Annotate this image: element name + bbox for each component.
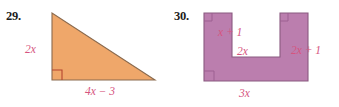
worksheet-page: 29. 2x 4x − 3 30. x + 1 2x 2x + 1 3x bbox=[0, 0, 339, 107]
figure-30-u-shape bbox=[0, 0, 339, 107]
dimension-label-inner-base: 2x bbox=[237, 46, 248, 58]
dimension-label-arm-height: x + 1 bbox=[218, 27, 242, 39]
dimension-label-bottom: 3x bbox=[239, 88, 250, 100]
dimension-label-right-side: 2x + 1 bbox=[291, 45, 321, 57]
